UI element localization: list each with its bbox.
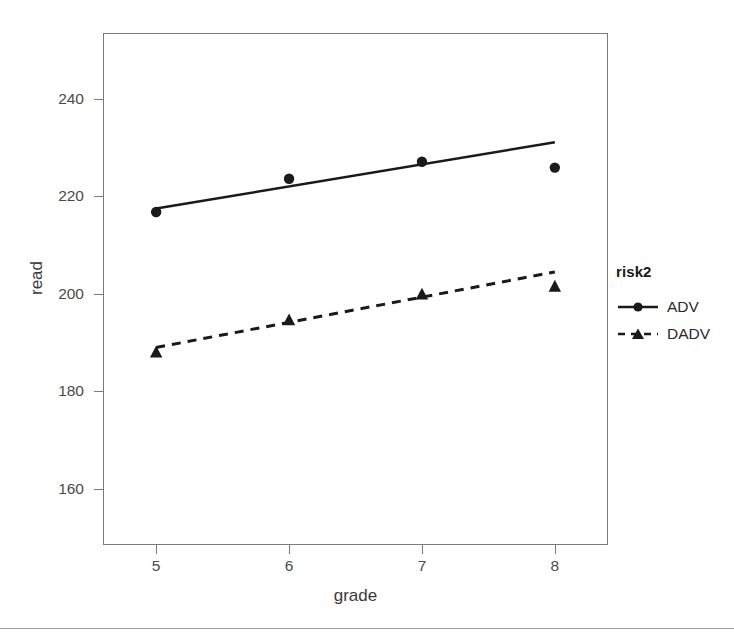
adv-point-grade-8 bbox=[550, 162, 560, 172]
y-tick-label-180: 180 bbox=[46, 383, 88, 399]
x-tick-label-7: 7 bbox=[402, 558, 442, 574]
dadv-point-grade-6 bbox=[283, 314, 295, 326]
y-tick-label-240: 240 bbox=[46, 91, 88, 107]
x-tick-mark-5 bbox=[156, 545, 157, 554]
chart-figure: 240 220 200 180 160 read bbox=[0, 0, 734, 640]
legend-title: risk2 bbox=[616, 263, 710, 280]
legend-item-adv: ADV bbox=[616, 293, 710, 320]
y-tick-mark-160 bbox=[94, 489, 103, 490]
x-tick-label-6: 6 bbox=[269, 558, 309, 574]
dadv-point-grade-7 bbox=[416, 288, 428, 300]
legend-item-dadv: DADV bbox=[616, 320, 710, 347]
adv-point-grade-5 bbox=[151, 207, 161, 217]
x-tick-mark-8 bbox=[555, 545, 556, 554]
adv-trend-line bbox=[156, 142, 555, 208]
y-tick-mark-220 bbox=[94, 196, 103, 197]
legend-key-dadv-icon bbox=[616, 325, 660, 343]
legend: risk2 ADV DADV bbox=[616, 263, 710, 347]
y-tick-mark-180 bbox=[94, 391, 103, 392]
y-tick-label-200: 200 bbox=[46, 286, 88, 302]
x-tick-mark-6 bbox=[289, 545, 290, 554]
y-tick-label-220: 220 bbox=[46, 188, 88, 204]
adv-point-grade-6 bbox=[284, 174, 294, 184]
legend-label-adv: ADV bbox=[667, 299, 699, 315]
y-tick-label-160: 160 bbox=[46, 481, 88, 497]
footer-divider bbox=[0, 628, 734, 629]
dadv-point-grade-8 bbox=[549, 280, 561, 292]
y-tick-mark-240 bbox=[94, 99, 103, 100]
dadv-trend-line bbox=[156, 272, 555, 348]
x-axis-title: grade bbox=[103, 586, 608, 606]
plot-content bbox=[103, 33, 608, 545]
y-axis-title: read bbox=[27, 233, 47, 323]
x-tick-label-8: 8 bbox=[535, 558, 575, 574]
legend-key-adv-icon bbox=[616, 298, 660, 316]
adv-point-grade-7 bbox=[417, 157, 427, 167]
x-tick-mark-7 bbox=[422, 545, 423, 554]
y-tick-mark-200 bbox=[94, 294, 103, 295]
x-tick-label-5: 5 bbox=[136, 558, 176, 574]
legend-label-dadv: DADV bbox=[667, 326, 710, 342]
